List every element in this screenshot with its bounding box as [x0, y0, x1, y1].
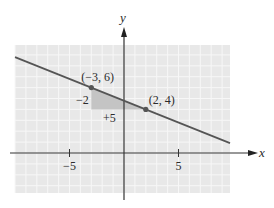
x-axis-label: x [258, 145, 265, 160]
point-label: (−3, 6) [81, 70, 114, 84]
point-label: (2, 4) [149, 93, 175, 107]
x-axis-arrow-icon [248, 150, 258, 156]
slope-chart: −55 (−3, 6)(2, 4) x y −2 +5 [0, 0, 274, 208]
grid [15, 45, 230, 193]
y-axis-label: y [118, 10, 126, 25]
y-axis-arrow-icon [121, 27, 127, 37]
x-tick-label: 5 [176, 159, 182, 173]
run-label: +5 [103, 111, 116, 125]
x-tick-label: −5 [63, 159, 76, 173]
data-point [143, 107, 148, 112]
data-point [89, 85, 94, 90]
rise-label: −2 [76, 93, 89, 107]
